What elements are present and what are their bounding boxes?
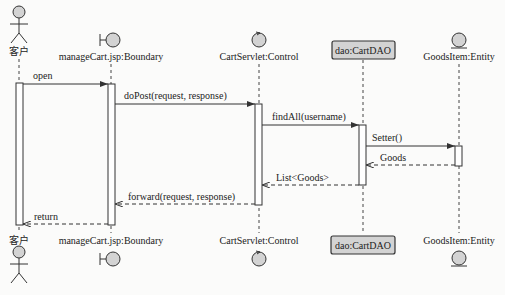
participant-label-customer-bottom: 客户: [9, 234, 29, 246]
boundary-icon-bottom: [100, 252, 120, 266]
participant-label-dao-top: dao:CartDAO: [335, 45, 391, 56]
activation-boundary: [108, 84, 115, 225]
boundary-icon-top: [100, 33, 120, 47]
message-forward-return: forward(request, response): [115, 191, 255, 204]
svg-text:open: open: [33, 70, 52, 81]
actor-icon-top: [10, 6, 28, 43]
message-goods-return: Goods: [366, 152, 455, 165]
control-icon-bottom: [252, 251, 266, 266]
message-return: return: [23, 211, 108, 224]
participant-label-entity-top: GoodsItem:Entity: [423, 51, 495, 62]
message-setter: Setter(): [366, 132, 455, 146]
message-list-return: List<Goods>: [262, 172, 359, 185]
message-findall: findAll(username): [262, 111, 359, 125]
activation-dao: [359, 125, 366, 185]
activation-customer: [16, 83, 23, 225]
svg-text:Goods: Goods: [380, 152, 406, 163]
control-icon-top: [252, 32, 266, 47]
activation-entity: [455, 146, 462, 166]
participant-label-entity-bottom: GoodsItem:Entity: [423, 235, 495, 246]
participant-label-boundary-bottom: manageCart.jsp:Boundary: [59, 235, 164, 246]
svg-text:Setter(): Setter(): [372, 132, 402, 144]
participant-label-control-top: CartServlet:Control: [220, 51, 299, 62]
dao-box-bottom: dao:CartDAO: [331, 236, 395, 254]
actor-icon-bottom: [10, 246, 28, 283]
participant-label-boundary-top: manageCart.jsp:Boundary: [59, 51, 164, 62]
svg-text:List<Goods>: List<Goods>: [276, 172, 329, 183]
activation-control: [255, 104, 262, 205]
svg-text:findAll(username): findAll(username): [272, 111, 346, 123]
message-dopost: doPost(request, response): [115, 90, 255, 104]
message-open: open: [23, 70, 108, 84]
participant-label-customer-top: 客户: [9, 45, 29, 57]
participant-label-dao-bottom: dao:CartDAO: [335, 240, 391, 251]
svg-text:forward(request, response): forward(request, response): [128, 191, 235, 203]
entity-icon-bottom: [451, 251, 467, 266]
participant-label-control-bottom: CartServlet:Control: [220, 235, 299, 246]
dao-box-top: dao:CartDAO: [332, 41, 395, 59]
svg-text:doPost(request, response): doPost(request, response): [124, 90, 227, 102]
svg-text:return: return: [34, 211, 58, 222]
entity-icon-top: [451, 33, 467, 48]
sequence-diagram: 客户 manageCart.jsp:Boundary CartServlet:C…: [0, 0, 505, 295]
